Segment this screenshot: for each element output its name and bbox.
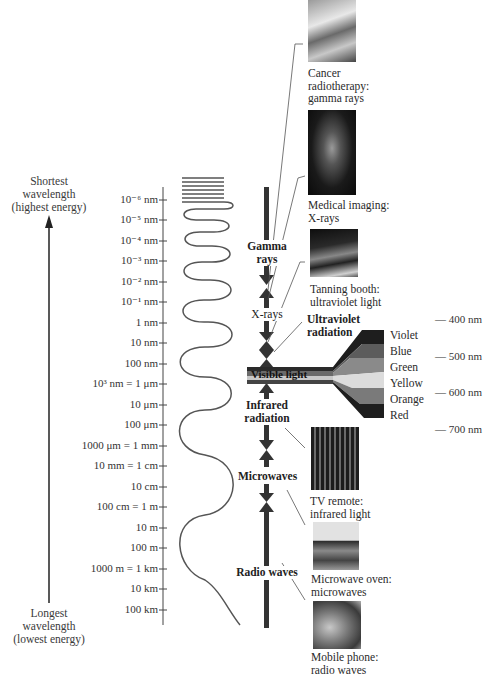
uv-line-2: radiation [307, 326, 360, 339]
color-blue: Blue [390, 345, 412, 357]
color-red: Red [390, 409, 409, 421]
caption-tv-remote: TV remote: infrared light [310, 495, 370, 520]
caption-line: Microwave oven: [311, 573, 392, 586]
color-yellow: Yellow [390, 377, 423, 389]
caption-line: gamma rays [308, 92, 369, 105]
radiotherapy-photo [308, 0, 356, 62]
color-orange: Orange [390, 393, 424, 405]
infrared-line-1: Infrared [244, 399, 290, 412]
caption-line: Tanning booth: [310, 283, 381, 296]
uv-line-1: Ultraviolet [307, 313, 360, 326]
caption-microwave-oven: Microwave oven: microwaves [311, 573, 392, 598]
mobile-phone-photo [313, 601, 361, 649]
scale-label: 100 m [130, 541, 158, 553]
caption-line: TV remote: [310, 495, 370, 508]
nm-mark-500: — 500 nm [435, 350, 482, 362]
caption-line: ultraviolet light [310, 296, 381, 309]
caption-line: radio waves [311, 664, 378, 677]
caption-line: infrared light [310, 508, 370, 521]
scale-label: 10³ nm = 1 μm [92, 377, 158, 389]
scale-label: 10 μm [130, 398, 158, 410]
scale-label: 10 nm [130, 336, 158, 348]
caption-line: Medical imaging: [308, 199, 389, 212]
caption-line: radiotherapy: [308, 80, 369, 93]
scale-label: 10 m [136, 521, 158, 533]
band-label-gamma: Gamma rays [245, 240, 289, 266]
scale-label: 1 nm [136, 316, 158, 328]
scale-label: 10 mm = 1 cm [94, 459, 158, 471]
band-label-ultraviolet: Ultraviolet radiation [307, 313, 360, 339]
caption-tanning-booth: Tanning booth: ultraviolet light [310, 283, 381, 308]
scale-label: 100 km [125, 603, 158, 615]
scale-label: 10 km [130, 582, 158, 594]
scale-label: 10⁻¹ nm [121, 295, 158, 308]
scale-label: 10⁻⁴ nm [120, 234, 158, 247]
infrared-line-2: radiation [244, 412, 290, 425]
scale-label: 10 cm [131, 480, 158, 492]
band-label-visible: Visible light [251, 368, 307, 381]
color-violet: Violet [390, 329, 418, 341]
tv-remote-photo [311, 427, 359, 490]
wavelength-scale-axis [159, 187, 167, 625]
microwave-oven-photo [313, 522, 359, 570]
nm-mark-600: — 600 nm [435, 386, 482, 398]
tanning-booth-photo [310, 229, 358, 277]
wavelength-wave [179, 178, 240, 625]
xray-hand-photo [308, 110, 356, 195]
band-label-xrays: X-rays [247, 308, 287, 321]
leader-lines [268, 44, 305, 600]
scale-label: 10⁻⁶ nm [120, 193, 158, 206]
scale-label: 100 nm [125, 357, 158, 369]
caption-mobile-phone: Mobile phone: radio waves [311, 651, 378, 676]
caption-line: Mobile phone: [311, 651, 378, 664]
nm-mark-700: — 700 nm [435, 423, 482, 435]
gamma-line-2: rays [245, 253, 289, 266]
scale-label: 10⁻³ nm [121, 254, 158, 267]
scale-label: 100 μm [124, 418, 158, 430]
scale-label: 1000 μm = 1 mm [82, 439, 158, 451]
scale-label: 1000 m = 1 km [91, 562, 158, 574]
scale-label: 10⁻² nm [121, 275, 158, 288]
caption-line: Cancer [308, 67, 369, 80]
caption-line: microwaves [311, 586, 392, 599]
nm-mark-400: — 400 nm [435, 313, 482, 325]
scale-label: 10⁻⁵ nm [120, 213, 158, 226]
band-label-radio: Radio waves [235, 566, 299, 579]
caption-radiotherapy: Cancer radiotherapy: gamma rays [308, 67, 369, 105]
caption-medical-imaging: Medical imaging: X-rays [308, 199, 389, 224]
color-green: Green [390, 361, 418, 373]
band-label-infrared: Infrared radiation [244, 399, 290, 425]
wavelength-scale-labels: 10⁻⁶ nm 10⁻⁵ nm 10⁻⁴ nm 10⁻³ nm 10⁻² nm … [0, 0, 158, 677]
band-label-microwaves: Microwaves [238, 470, 296, 483]
gamma-line-1: Gamma [245, 240, 289, 253]
scale-label: 100 cm = 1 m [97, 500, 158, 512]
caption-line: X-rays [308, 212, 389, 225]
